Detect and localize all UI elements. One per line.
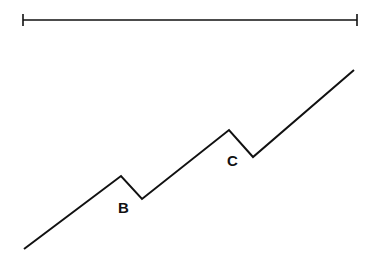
diagram-svg: B C	[0, 0, 381, 257]
label-b: B	[118, 199, 129, 216]
label-c: C	[227, 152, 238, 169]
diagram-canvas: B C	[0, 0, 381, 257]
range-bar	[23, 14, 357, 26]
trend-zigzag-line	[24, 70, 354, 249]
